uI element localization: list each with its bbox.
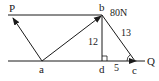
label-bd-length: 12 (88, 36, 98, 47)
label-b: b (99, 1, 105, 13)
label-Q: Q (147, 55, 155, 67)
label-d: d (99, 63, 105, 75)
right-angle-mark (102, 56, 107, 61)
segment-bc (102, 15, 135, 61)
label-c: c (132, 64, 137, 76)
vector-aP (13, 18, 42, 61)
force-diagram: P b 80N 12 13 Q a d 5 c (0, 0, 159, 81)
label-P: P (9, 2, 15, 14)
label-a: a (39, 63, 44, 75)
label-bc-length: 13 (121, 27, 131, 38)
label-dc-length: 5 (114, 62, 119, 73)
label-force: 80N (110, 7, 127, 18)
